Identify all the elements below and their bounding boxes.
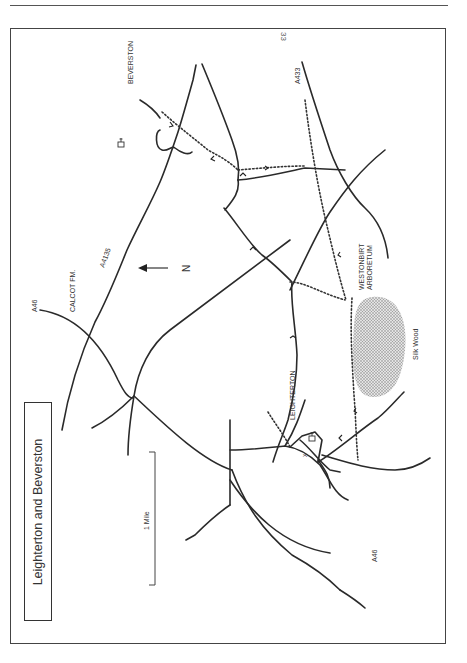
road-sw-arc [230, 480, 330, 553]
road-beverston-east [202, 64, 239, 180]
route-beverston [162, 112, 238, 170]
road-junction-south [134, 396, 232, 470]
label-westonbirt: WESTONBIRT [358, 243, 365, 290]
road-to-silk-wood [318, 392, 404, 462]
label-a4135: A4135 [98, 247, 112, 269]
label-calcot: CALCOT FM. [69, 270, 76, 312]
route-westonbirt [290, 282, 345, 300]
label-a46-north: A46 [31, 299, 38, 312]
route-a433 [305, 100, 346, 300]
road-sw-loop [186, 505, 230, 540]
inn-marker: x [301, 453, 308, 457]
map-title: Leighterton and Beverston [31, 407, 45, 617]
silk-wood-area [353, 297, 406, 397]
road-west-diagonal [224, 180, 297, 462]
label-beverston: BEVERSTON [127, 41, 134, 84]
road-south-east [322, 455, 430, 470]
church-icon [118, 138, 124, 147]
road-a433 [302, 62, 388, 258]
route-map: x BEVERSTON CALCOT FM. LEIGHTERTON WESTO… [0, 0, 467, 663]
road-beverston-spur [140, 100, 160, 118]
label-a46-south: A46 [371, 549, 378, 562]
north-arrow [138, 264, 168, 272]
label-scale: 1 Mile [143, 511, 150, 530]
road-junction-west [92, 396, 134, 428]
road-leighterton-a [232, 470, 340, 590]
label-silk-wood: Silk Wood [412, 329, 419, 360]
label-arboretum: ARBORETUM [366, 245, 373, 290]
road-to-a433 [238, 168, 345, 180]
road-a46-south [340, 590, 365, 608]
road-a4135 [62, 65, 196, 430]
road-long-diagonal [128, 240, 290, 455]
label-north: N [181, 265, 192, 272]
road-a46-north [40, 310, 133, 398]
label-a433: A433 [294, 68, 301, 84]
label-leighterton: LEIGHTERTON [289, 370, 296, 420]
walking-route [162, 100, 358, 460]
